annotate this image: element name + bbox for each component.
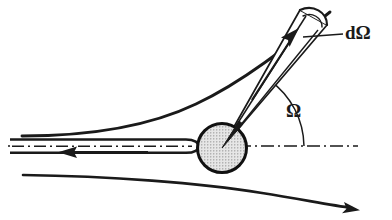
d-omega-label: dΩ bbox=[345, 22, 371, 43]
scattering-diagram-canvas: dΩ Ω bbox=[0, 0, 392, 220]
scattering-diagram: dΩ Ω bbox=[0, 0, 392, 220]
omega-label: Ω bbox=[286, 100, 301, 121]
lower-deflected-trajectory bbox=[23, 175, 352, 208]
